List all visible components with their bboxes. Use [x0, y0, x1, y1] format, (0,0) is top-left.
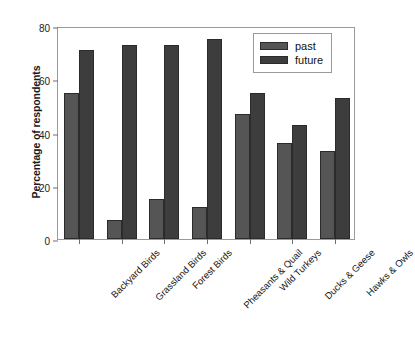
legend-label-future: future: [295, 55, 323, 66]
legend-item-future: future: [260, 53, 323, 67]
bar-future-6: [335, 98, 350, 239]
bar-past-0: [64, 93, 79, 239]
y-tick-label: 60: [39, 76, 53, 87]
bar-past-6: [320, 151, 335, 239]
bar-past-5: [277, 143, 292, 239]
bar-future-5: [292, 125, 307, 239]
x-tick-6: [335, 239, 336, 244]
x-tick-1: [122, 239, 123, 244]
y-tick-label: 0: [44, 236, 53, 247]
y-tick-40: 40: [39, 129, 58, 140]
legend-item-past: past: [260, 39, 323, 53]
x-tick-0: [79, 239, 80, 244]
clipped-caption: [22, 330, 352, 340]
bar-future-1: [122, 45, 137, 239]
bar-past-1: [107, 220, 122, 239]
y-tick-label: 40: [39, 129, 53, 140]
y-tick-20: 20: [39, 182, 58, 193]
bar-future-3: [207, 39, 222, 239]
chart-legend: past future: [253, 33, 332, 73]
bar-past-4: [235, 114, 250, 239]
x-tick-5: [292, 239, 293, 244]
x-tick-3: [207, 239, 208, 244]
x-tick-4: [250, 239, 251, 244]
bar-future-0: [79, 50, 94, 239]
y-tick-mark: [53, 187, 58, 188]
bar-future-4: [250, 93, 265, 239]
y-tick-mark: [53, 28, 58, 29]
y-tick-mark: [53, 241, 58, 242]
bar-past-3: [192, 207, 207, 239]
y-tick-label: 20: [39, 182, 53, 193]
y-tick-80: 80: [39, 23, 58, 34]
bar-future-2: [164, 45, 179, 239]
y-tick-mark: [53, 81, 58, 82]
legend-swatch-future: [260, 56, 288, 64]
legend-label-past: past: [295, 41, 316, 52]
x-tick-2: [164, 239, 165, 244]
y-tick-label: 80: [39, 23, 53, 34]
y-tick-60: 60: [39, 76, 58, 87]
legend-swatch-past: [260, 42, 288, 50]
y-tick-mark: [53, 134, 58, 135]
y-tick-0: 0: [44, 236, 58, 247]
bar-past-2: [149, 199, 164, 239]
